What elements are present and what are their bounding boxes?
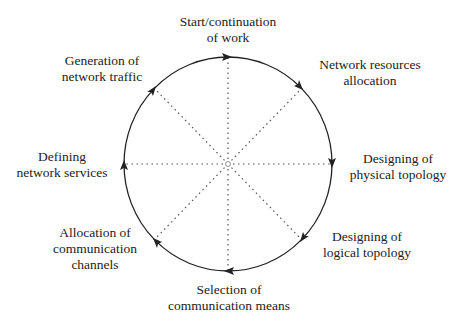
stage-label-top-right: Network resources allocation: [319, 57, 421, 89]
stage-label-top: Start/continuation of work: [180, 14, 277, 46]
stage-label-bottom: Selection of communication means: [168, 282, 290, 314]
arrow-icon: [294, 80, 303, 90]
center-marker: [226, 162, 231, 167]
cycle-diagram: Start/continuation of work Network resou…: [0, 0, 451, 324]
stage-label-bottom-left: Allocation of communication channels: [53, 225, 137, 273]
stage-label-top-left: Generation of network traffic: [62, 53, 142, 85]
stage-label-right: Designing of physical topology: [350, 151, 446, 183]
stage-label-left: Defining network services: [16, 149, 107, 181]
arrow-icon: [153, 238, 162, 248]
stage-label-bottom-right: Designing of logical topology: [323, 229, 411, 261]
